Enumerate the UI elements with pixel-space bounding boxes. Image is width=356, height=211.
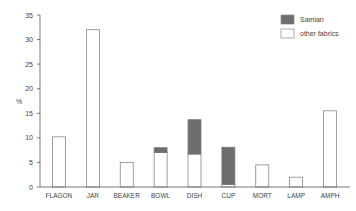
y-tick-label: 20 [25, 85, 33, 92]
legend-label: other fabrics [300, 30, 339, 37]
bar-lamp [290, 177, 303, 187]
y-tick-label: 35 [25, 12, 33, 19]
x-tick-label: BOWL [151, 192, 171, 199]
bar-segment-samian [222, 147, 235, 184]
x-tick-label: LAMP [287, 192, 305, 199]
x-tick-label: CUP [222, 192, 236, 199]
x-tick-label: JAR [87, 192, 100, 199]
x-tick-label: FLAGON [46, 192, 73, 199]
y-axis: 05101520253035% [16, 12, 40, 191]
legend-swatch [281, 29, 294, 38]
y-tick-label: 30 [25, 36, 33, 43]
bars [52, 30, 336, 187]
y-tick-label: 15 [25, 110, 33, 117]
bar-flagon [52, 137, 65, 187]
bar-segment-other-fabrics [256, 165, 269, 187]
legend: Samianother fabrics [281, 15, 339, 38]
bar-segment-other-fabrics [290, 177, 303, 187]
bar-dish [188, 120, 201, 187]
bar-segment-other-fabrics [324, 111, 337, 187]
legend-label: Samian [300, 16, 324, 23]
stacked-bar-chart: 05101520253035% FLAGONJARBEAKERBOWLDISHC… [0, 0, 356, 211]
bar-jar [86, 30, 99, 187]
y-tick-label: 10 [25, 134, 33, 141]
bar-segment-other-fabrics [52, 137, 65, 187]
bar-segment-samian [188, 120, 201, 154]
bar-segment-other-fabrics [86, 30, 99, 187]
bar-beaker [120, 162, 133, 187]
bar-segment-other-fabrics [120, 162, 133, 187]
x-tick-label: MORT [253, 192, 272, 199]
bar-amph [324, 111, 337, 187]
x-tick-label: AMPH [321, 192, 340, 199]
bar-cup [222, 147, 235, 187]
bar-segment-other-fabrics [188, 154, 201, 187]
bar-segment-samian [154, 148, 167, 153]
y-tick-label: 0 [29, 184, 33, 191]
bar-bowl [154, 148, 167, 187]
x-axis: FLAGONJARBEAKERBOWLDISHCUPMORTLAMPAMPH [40, 187, 350, 199]
legend-swatch [281, 15, 294, 24]
y-tick-label: 25 [25, 61, 33, 68]
x-tick-label: DISH [187, 192, 203, 199]
y-axis-label: % [16, 98, 22, 105]
y-tick-label: 5 [29, 159, 33, 166]
bar-mort [256, 165, 269, 187]
x-tick-label: BEAKER [114, 192, 141, 199]
bar-segment-other-fabrics [154, 153, 167, 187]
